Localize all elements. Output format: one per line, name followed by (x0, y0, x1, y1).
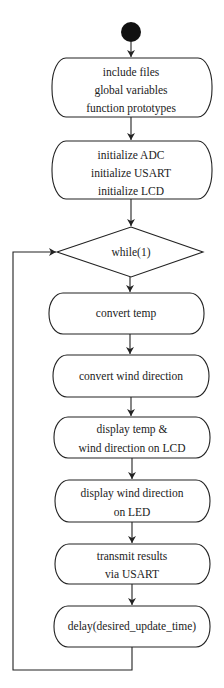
node-label-line: initialize LCD (98, 185, 164, 197)
node-label-line: display wind direction (81, 487, 184, 500)
node-label-line: wind direction on LCD (79, 442, 186, 454)
node-loop-decision: while(1) (57, 227, 203, 277)
node-label-line: on LED (114, 506, 151, 518)
node-label-line: convert temp (96, 307, 157, 320)
start-node (121, 22, 141, 42)
node-delay: delay(desired_update_time) (54, 606, 210, 647)
node-label-line: via USART (105, 568, 159, 580)
decision-label: while(1) (112, 246, 151, 259)
flowchart: include files global variables function … (0, 0, 224, 688)
node-convert-temp: convert temp (49, 293, 204, 334)
node-convert-wind: convert wind direction (53, 355, 209, 397)
node-label-line: delay(desired_update_time) (68, 620, 197, 633)
node-transmit: transmit results via USART (55, 544, 210, 584)
node-label-line: initialize ADC (98, 149, 165, 161)
node-label-line: include files (103, 66, 160, 78)
node-init-includes: include files global variables function … (52, 58, 212, 117)
node-label-line: convert wind direction (79, 370, 183, 382)
node-display-lcd: display temp & wind direction on LCD (54, 417, 210, 458)
node-display-led: display wind direction on LED (55, 480, 210, 522)
node-label-line: global variables (94, 84, 168, 97)
node-label-line: transmit results (97, 550, 168, 562)
node-label-line: initialize USART (91, 167, 171, 179)
node-label-line: display temp & (97, 423, 168, 436)
node-init-peripherals: initialize ADC initialize USART initiali… (52, 141, 212, 199)
node-label-line: function prototypes (86, 102, 176, 115)
